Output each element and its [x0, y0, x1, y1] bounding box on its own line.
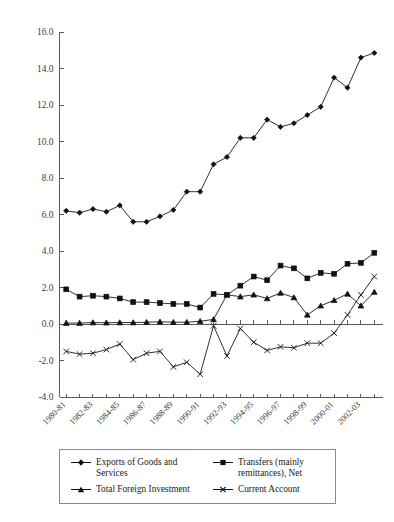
legend-label: Current Account: [238, 484, 300, 495]
svg-text:14.0: 14.0: [37, 64, 54, 74]
y-axis-ticks: [60, 32, 64, 397]
svg-text:16.0: 16.0: [37, 27, 54, 37]
chart-legend: Exports of Goods and Services Transfers …: [59, 449, 336, 504]
legend-label: Transfers (mainly remittances), Net: [238, 457, 336, 480]
svg-text:4.0: 4.0: [42, 246, 54, 256]
y-axis-labels: 16.014.012.010.08.06.04.02.00.0-2.0-4.0: [37, 27, 54, 402]
svg-text:6.0: 6.0: [42, 210, 54, 220]
svg-text:1992-93: 1992-93: [201, 399, 228, 426]
chart-container: 16.014.012.010.08.06.04.02.00.0-2.0-4.0 …: [0, 0, 394, 522]
triangle-marker-icon: [70, 484, 92, 495]
svg-text:1982-83: 1982-83: [67, 399, 94, 426]
svg-text:8.0: 8.0: [42, 173, 54, 183]
svg-text:1994-95: 1994-95: [228, 399, 255, 426]
data-series-group: [63, 50, 377, 377]
svg-text:1986-87: 1986-87: [121, 399, 149, 427]
svg-text:2002-03: 2002-03: [335, 399, 362, 426]
svg-text:10.0: 10.0: [37, 137, 54, 147]
svg-text:1996-97: 1996-97: [255, 399, 283, 427]
legend-item-total-foreign-investment[interactable]: Total Foreign Investment: [70, 484, 210, 495]
x-axis-ticks: [66, 320, 374, 397]
diamond-marker-icon: [70, 457, 92, 468]
series-1: [64, 250, 377, 310]
cross-marker-icon: [212, 484, 234, 495]
svg-text:1984-85: 1984-85: [94, 399, 121, 426]
legend-label: Exports of Goods and Services: [96, 457, 198, 480]
legend-label: Total Foreign Investment: [96, 484, 190, 495]
svg-text:2000-01: 2000-01: [308, 399, 335, 426]
svg-text:1980-81: 1980-81: [40, 399, 67, 426]
svg-text:1990-91: 1990-91: [174, 399, 201, 426]
legend-grid: Exports of Goods and Services Transfers …: [60, 450, 335, 503]
legend-item-exports-of-goods-and-services[interactable]: Exports of Goods and Services: [70, 457, 198, 480]
line-chart-plot: 16.014.012.010.08.06.04.02.00.0-2.0-4.0 …: [0, 0, 394, 522]
svg-text:-4.0: -4.0: [38, 392, 53, 402]
series-3: [63, 274, 377, 377]
svg-text:1988-89: 1988-89: [147, 399, 174, 426]
svg-text:2.0: 2.0: [42, 283, 54, 293]
svg-text:0.0: 0.0: [42, 319, 54, 329]
legend-item-transfers-net[interactable]: Transfers (mainly remittances), Net: [212, 457, 336, 480]
series-0: [64, 50, 377, 224]
x-axis-labels: 1980-811982-831984-851986-871988-891990-…: [40, 399, 362, 427]
svg-text:1998-99: 1998-99: [281, 399, 308, 426]
square-marker-icon: [212, 457, 234, 468]
svg-text:12.0: 12.0: [37, 100, 54, 110]
svg-text:-2.0: -2.0: [38, 356, 53, 366]
legend-item-current-account[interactable]: Current Account: [212, 484, 336, 495]
